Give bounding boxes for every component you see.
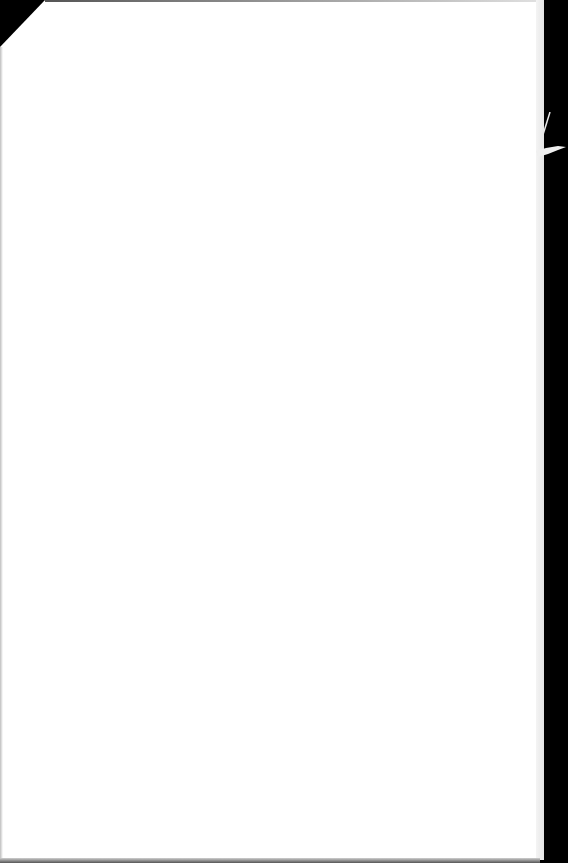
paper-tear-icon [536,145,566,159]
top-page-edge [45,0,540,2]
blank-scanned-page [0,0,540,860]
bottom-page-edge [0,858,540,863]
left-page-edge [0,47,3,860]
paper-crease-icon [538,112,552,142]
